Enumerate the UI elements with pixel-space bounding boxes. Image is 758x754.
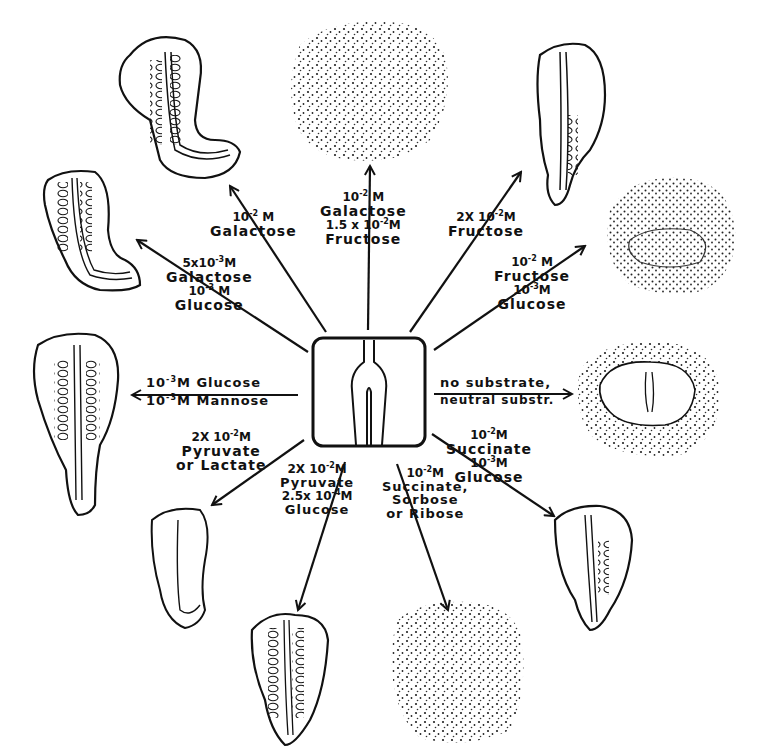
label-glucose-mannose: 10-3M Glucose 10-3M Mannose	[146, 376, 269, 408]
result-embryo-bottom-center	[252, 614, 328, 745]
result-embryo-bottom-right	[555, 506, 632, 630]
result-stippled-ring-right	[608, 178, 736, 294]
result-mass-no-substrate	[578, 342, 720, 456]
center-explant	[313, 338, 425, 446]
label-galactose: 10-2 M Galactose	[210, 210, 297, 238]
label-fructose: 2X 10-2M Fructose	[448, 210, 524, 238]
label-fructose-glucose: 10-2 M Fructose 10-3M Glucose	[494, 255, 570, 312]
label-galactose-glucose: 5x10-3M Galactose 10-3 M Glucose	[166, 256, 253, 313]
label-galactose-fructose: 10-2 M Galactose 1.5 x 10-2M Fructose	[320, 190, 407, 247]
result-full-embryo-left	[34, 334, 118, 515]
result-stippled-bottom	[392, 602, 524, 743]
result-curved-embryo-left	[44, 171, 140, 290]
result-small-embryo	[152, 509, 208, 628]
label-pyruvate-glucose: 2X 10-2M Pyruvate 2.5x 10-4M Glucose	[280, 462, 354, 516]
label-pyruvate-lactate: 2X 10-2M Pyruvate or Lactate	[176, 430, 266, 473]
diagram-canvas: 10-2 M Galactose 10-2 M Galactose 1.5 x …	[0, 0, 758, 754]
result-stippled-top	[291, 22, 448, 161]
result-embryo-top-right	[538, 44, 606, 205]
diagram-artwork	[0, 0, 758, 754]
result-curved-embryo-top-left	[120, 37, 240, 178]
label-succinate-sorbose-ribose: 10-2M Succinate, Sorbose or Ribose	[382, 466, 468, 521]
label-no-substrate: no substrate, neutral substr.	[440, 376, 554, 406]
